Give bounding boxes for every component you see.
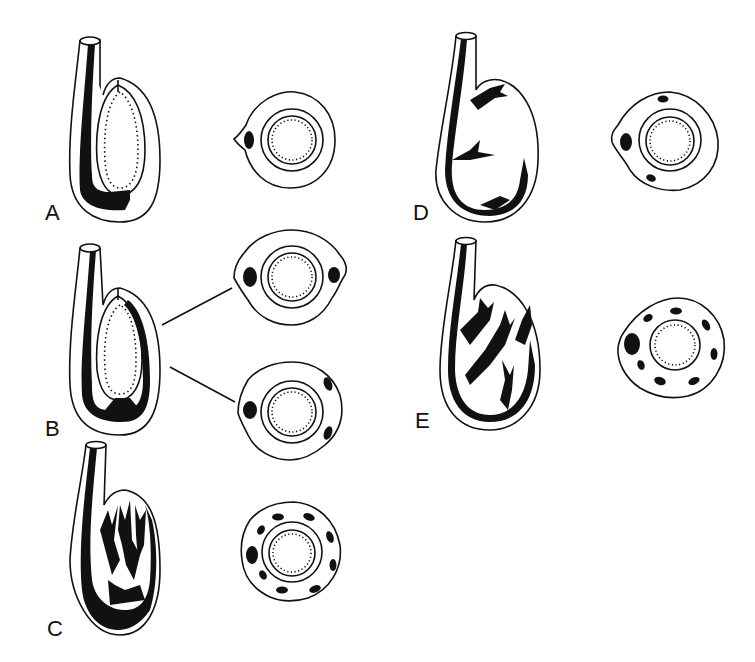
leader-line-lower: [170, 367, 235, 402]
cross-section-b-upper: [234, 230, 346, 325]
leader-line-upper: [162, 288, 232, 325]
cross-section-e: [618, 298, 724, 398]
cross-section-a: [234, 92, 335, 188]
cross-section-c: [241, 502, 340, 601]
ovule-vasculature-diagram: [0, 0, 755, 662]
ovule-d: [436, 33, 538, 223]
ovule-b: [70, 244, 160, 435]
ovule-e: [440, 238, 540, 431]
cross-section-b-lower: [238, 362, 342, 460]
ovule-c: [70, 442, 160, 636]
cross-section-d: [611, 92, 718, 190]
ovule-a: [70, 37, 160, 222]
